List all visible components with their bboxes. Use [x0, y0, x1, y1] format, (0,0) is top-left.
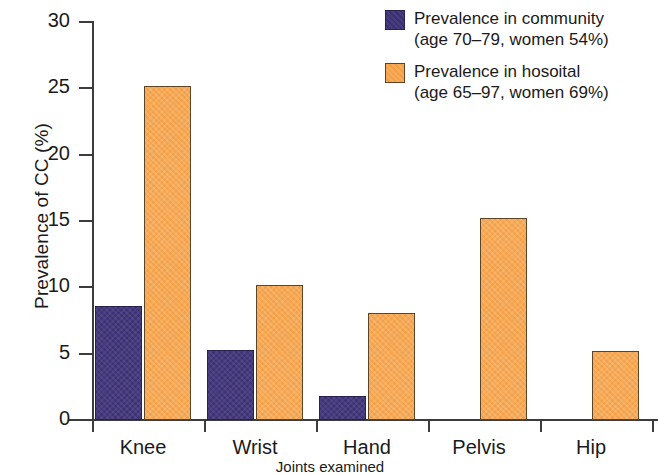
x-axis-tick [428, 419, 430, 432]
bar-knee-series-1 [144, 86, 191, 420]
legend-label-hospital: Prevalence in hosoital (age 65–97, women… [414, 61, 609, 103]
x-axis-tick [652, 419, 654, 432]
y-axis-tick [79, 220, 93, 222]
x-axis-label-hip: Hip [576, 436, 606, 459]
y-axis-tick-label: 15 [28, 208, 70, 231]
legend-label-community: Prevalence in community (age 70–79, wome… [414, 8, 609, 50]
bar-hand-series-1 [368, 313, 415, 420]
x-axis-tick [540, 419, 542, 432]
y-axis-tick-label: 5 [28, 341, 70, 364]
bar-knee-series-0 [95, 306, 142, 420]
bar-wrist-series-1 [256, 285, 303, 420]
x-axis-label-pelvis: Pelvis [452, 436, 505, 459]
legend-label-community-main: Prevalence in community [414, 9, 604, 28]
bar-hip-series-1 [592, 351, 639, 420]
y-axis-tick [79, 87, 93, 89]
legend-entry-hospital: Prevalence in hosoital (age 65–97, women… [385, 61, 657, 103]
x-axis-title: Joints examined [0, 458, 660, 475]
y-axis-tick [79, 286, 93, 288]
y-axis-tick-label: 10 [28, 274, 70, 297]
y-axis-tick [79, 21, 93, 23]
x-axis-label-hand: Hand [343, 436, 391, 459]
bar-hand-series-0 [319, 396, 366, 420]
legend-label-community-sub: (age 70–79, women 54%) [414, 29, 609, 50]
legend-entry-community: Prevalence in community (age 70–79, wome… [385, 8, 657, 50]
legend-swatch-community-icon [385, 10, 405, 30]
y-axis-tick [79, 353, 93, 355]
x-axis-label-knee: Knee [120, 436, 167, 459]
bar-wrist-series-0 [207, 350, 254, 420]
y-axis-tick-label: 30 [28, 9, 70, 32]
legend-label-hospital-main: Prevalence in hosoital [414, 62, 580, 81]
x-axis-tick [316, 419, 318, 432]
y-axis-tick-label: 20 [28, 142, 70, 165]
legend-swatch-hospital-icon [385, 63, 405, 83]
y-axis-tick [79, 419, 93, 421]
legend-label-hospital-sub: (age 65–97, women 69%) [414, 82, 609, 103]
chart-legend: Prevalence in community (age 70–79, wome… [385, 8, 657, 114]
y-axis-tick-label: 25 [28, 75, 70, 98]
y-axis-tick [79, 154, 93, 156]
x-axis-tick [204, 419, 206, 432]
x-axis-label-wrist: Wrist [232, 436, 277, 459]
x-axis-tick [92, 419, 94, 432]
bar-pelvis-series-1 [480, 218, 527, 420]
y-axis-tick-label: 0 [28, 407, 70, 430]
